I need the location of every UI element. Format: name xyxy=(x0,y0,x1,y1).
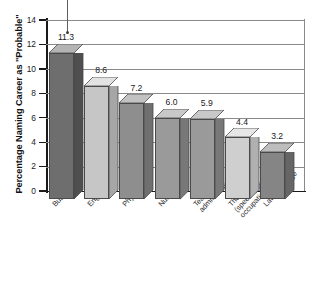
bar-front-face xyxy=(84,86,109,199)
y-tick-label: 10 xyxy=(20,65,36,73)
bar-front-face xyxy=(190,119,215,199)
bar-top-face xyxy=(225,128,260,137)
bar-side-face xyxy=(285,152,294,199)
bar-value-label: 11.3 xyxy=(46,33,86,42)
bar-side-face xyxy=(74,53,83,199)
y-tick-label: 0 xyxy=(20,187,36,195)
gridline xyxy=(46,20,305,21)
y-tick-mark xyxy=(39,190,46,191)
y-axis-ticks: 14121086420 xyxy=(0,0,36,282)
bar xyxy=(84,86,109,199)
bar-top-face xyxy=(84,77,119,86)
bar xyxy=(190,119,215,199)
y-tick-mark xyxy=(39,44,46,45)
bar-front-face xyxy=(119,103,144,199)
y-tick-mark xyxy=(39,19,46,20)
bar-value-label: 5.9 xyxy=(187,99,227,108)
bar-chart: Percentage Naming Career as "Probable" 1… xyxy=(0,0,314,282)
bar-top-face xyxy=(260,143,295,152)
y-tick-mark xyxy=(39,142,46,143)
bar xyxy=(225,137,250,199)
bar-side-face xyxy=(215,119,224,199)
y-tick-mark xyxy=(39,93,46,94)
y-tick-label: 4 xyxy=(20,138,36,146)
bar-value-label: 8.6 xyxy=(81,66,121,75)
bar-front-face xyxy=(225,137,250,199)
bar-side-face xyxy=(180,118,189,199)
y-tick-mark xyxy=(39,117,46,118)
bar-side-face xyxy=(109,86,118,199)
vertical-pointer-dot xyxy=(66,31,69,34)
y-tick-mark xyxy=(39,68,46,69)
bar xyxy=(119,103,144,199)
y-tick-label: 2 xyxy=(20,162,36,170)
vertical-pointer-line xyxy=(67,0,68,32)
y-tick-label: 8 xyxy=(20,89,36,97)
bar-top-face xyxy=(119,94,154,103)
bar xyxy=(155,118,180,199)
bar-top-face xyxy=(155,109,190,118)
gridline xyxy=(46,44,305,45)
bar-front-face xyxy=(49,53,74,199)
bar-front-face xyxy=(155,118,180,199)
bar xyxy=(260,152,285,199)
bar-front-face xyxy=(260,152,285,199)
bar-value-label: 3.2 xyxy=(257,132,297,141)
bar-value-label: 4.4 xyxy=(222,118,262,127)
y-tick-label: 6 xyxy=(20,114,36,122)
bar-top-face xyxy=(49,44,84,53)
bar-side-face xyxy=(250,137,259,199)
y-tick-label: 12 xyxy=(20,40,36,48)
y-tick-label: 14 xyxy=(20,16,36,24)
bar-top-face xyxy=(190,110,225,119)
bar-value-label: 6.0 xyxy=(152,98,192,107)
bar-side-face xyxy=(144,103,153,199)
y-tick-mark xyxy=(39,166,46,167)
bar xyxy=(49,53,74,199)
bar-value-label: 7.2 xyxy=(116,84,156,93)
